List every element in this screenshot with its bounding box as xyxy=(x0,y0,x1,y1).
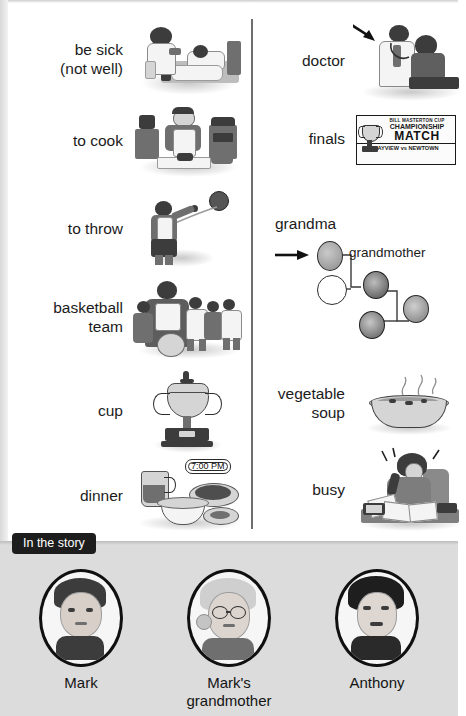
illustration-be-sick xyxy=(131,21,243,99)
character-name: Mark xyxy=(25,674,137,692)
illustration-family-tree: grandmother xyxy=(273,233,466,353)
vocab-label: cup xyxy=(8,402,123,421)
family-tree-empty-node xyxy=(317,275,347,305)
story-character-anthony[interactable]: Anthony xyxy=(321,569,433,710)
vocab-item-basketball-team[interactable]: basketball team xyxy=(8,275,243,361)
illustration-dinner: 7:00 PM xyxy=(131,459,243,533)
vocab-item-grandma[interactable]: grandma xyxy=(253,179,466,299)
story-characters-list: Mark Mark's grandmother xyxy=(0,569,458,710)
character-name: Anthony xyxy=(321,674,433,692)
family-tree-mother xyxy=(363,271,389,299)
vocab-item-doctor[interactable]: doctor xyxy=(253,19,466,103)
story-character-mark[interactable]: Mark xyxy=(25,569,137,710)
illustration-trophy-cup xyxy=(131,369,243,453)
vocab-label: doctor xyxy=(253,52,345,71)
championship-poster: BILL MASTERTON CUP CHAMPIONSHIP MATCH BA… xyxy=(356,115,456,165)
vocabulary-right-column: doctor xyxy=(253,3,466,537)
family-tree-label: grandmother xyxy=(349,245,426,260)
vocab-item-cup[interactable]: cup xyxy=(8,369,243,453)
steam-icon xyxy=(395,373,445,397)
vocab-label: busy xyxy=(253,481,345,500)
vocab-item-be-sick[interactable]: be sick (not well) xyxy=(8,21,243,99)
vocab-label: dinner xyxy=(8,487,123,506)
page-binding-strip xyxy=(0,0,8,541)
family-tree-grandmother xyxy=(317,241,343,271)
vocab-label: to throw xyxy=(8,220,123,239)
avatar xyxy=(335,569,419,667)
illustration-busy xyxy=(353,447,465,533)
poster-line-3: MATCH xyxy=(379,130,455,142)
vocab-label: be sick (not well) xyxy=(8,41,123,79)
vocab-label: basketball team xyxy=(8,299,123,337)
in-the-story-section: In the story Mark xyxy=(0,541,458,716)
illustration-doctor xyxy=(353,19,465,103)
character-name: Mark's grandmother xyxy=(173,674,285,710)
section-badge: In the story xyxy=(12,533,96,554)
vocab-label: grandma xyxy=(275,215,385,234)
avatar xyxy=(39,569,123,667)
vocab-item-dinner[interactable]: dinner 7:00 PM xyxy=(8,459,243,533)
vocab-item-busy[interactable]: busy xyxy=(253,447,466,533)
avatar xyxy=(187,569,271,667)
illustration-basketball-team xyxy=(131,275,243,361)
vocab-item-to-cook[interactable]: to cook xyxy=(8,103,243,179)
pointer-arrow-icon xyxy=(273,247,313,263)
story-character-grandmother[interactable]: Mark's grandmother xyxy=(173,569,285,710)
vocab-item-vegetable-soup[interactable]: vegetable soup xyxy=(253,373,466,435)
vocab-label: vegetable soup xyxy=(253,385,345,423)
vocabulary-left-column: be sick (not well) xyxy=(8,3,243,537)
family-tree-father xyxy=(403,295,429,323)
illustration-to-cook xyxy=(131,103,243,179)
dinner-time-label: 7:00 PM xyxy=(185,459,231,474)
illustration-vegetable-soup xyxy=(353,373,465,435)
vocab-item-finals[interactable]: finals BILL MASTERTON CUP CHAMPIONSHIP M… xyxy=(253,111,466,167)
vocab-label: finals xyxy=(253,130,345,149)
vocabulary-card: be sick (not well) xyxy=(8,3,458,537)
stress-marks-icon xyxy=(381,447,445,467)
vocab-label: to cook xyxy=(8,132,123,151)
vocab-item-to-throw[interactable]: to throw xyxy=(8,189,243,269)
illustration-to-throw xyxy=(131,189,243,269)
illustration-finals-poster: BILL MASTERTON CUP CHAMPIONSHIP MATCH BA… xyxy=(353,111,465,167)
family-tree-child xyxy=(359,311,385,339)
